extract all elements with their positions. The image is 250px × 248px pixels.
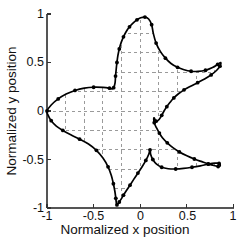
data-marker	[148, 148, 152, 152]
data-marker	[115, 61, 119, 65]
data-marker	[192, 157, 196, 161]
data-marker	[122, 35, 126, 39]
data-marker	[204, 68, 208, 72]
data-marker	[182, 88, 186, 92]
data-marker	[152, 121, 156, 125]
data-marker	[164, 56, 168, 60]
data-marker	[151, 158, 155, 162]
data-marker	[217, 161, 221, 165]
data-marker	[128, 183, 132, 187]
data-marker	[165, 105, 169, 109]
data-marker	[190, 165, 194, 169]
data-marker	[111, 182, 115, 186]
y-tick-label: 0.5	[20, 56, 44, 69]
data-marker	[154, 41, 158, 45]
data-marker	[115, 203, 119, 207]
data-marker	[196, 81, 200, 85]
data-marker	[49, 119, 53, 123]
data-marker	[165, 141, 169, 145]
data-marker	[122, 193, 126, 197]
x-tick-label: -0.5	[83, 210, 105, 223]
data-marker	[174, 167, 178, 171]
data-markers	[45, 15, 222, 207]
data-marker	[206, 162, 210, 166]
x-tick-label: 1	[230, 210, 237, 223]
data-marker	[144, 159, 148, 163]
data-marker	[61, 129, 65, 133]
x-tick-label: 0.5	[179, 210, 196, 223]
y-tick-label: 1	[28, 8, 44, 21]
data-marker	[45, 109, 49, 113]
y-axis-title: Normalized y position	[4, 46, 19, 175]
data-marker	[117, 47, 121, 51]
x-tick-label: 0	[137, 210, 144, 223]
data-marker	[209, 73, 213, 77]
data-marker	[56, 97, 60, 101]
data-marker	[172, 96, 176, 100]
data-marker	[136, 171, 140, 175]
x-axis-title: Normalized x position	[60, 222, 189, 237]
data-marker	[189, 69, 193, 73]
grid-lines	[47, 14, 234, 208]
data-marker	[92, 85, 96, 89]
data-marker	[108, 86, 112, 90]
data-marker	[157, 131, 161, 135]
data-marker	[135, 18, 139, 22]
data-marker	[128, 25, 132, 29]
figure-canvas: -1 -0.5 0 0.5 1 1 0.5 0 -0.5 -1 Normaliz…	[0, 0, 250, 248]
data-marker	[160, 165, 164, 169]
data-marker	[150, 23, 154, 27]
data-marker	[178, 150, 182, 154]
data-marker	[95, 148, 99, 152]
data-marker	[112, 86, 116, 90]
y-tick-label: -1	[24, 202, 44, 215]
data-marker	[114, 196, 118, 200]
data-marker	[78, 137, 82, 141]
data-marker	[114, 74, 118, 78]
y-tick-label: -0.5	[16, 153, 44, 166]
data-marker	[143, 15, 147, 19]
data-marker	[218, 64, 222, 68]
data-marker	[73, 89, 77, 93]
data-marker	[176, 65, 180, 69]
y-tick-label: 0	[28, 105, 44, 118]
data-marker	[160, 113, 164, 117]
data-marker	[106, 165, 110, 169]
